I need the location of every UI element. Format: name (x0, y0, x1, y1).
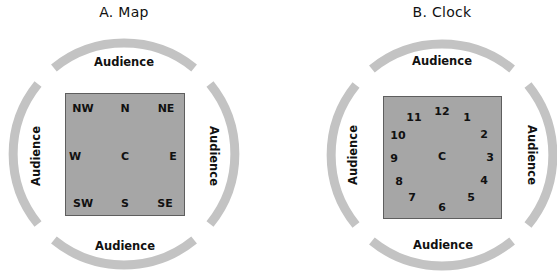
audience-bottom: Audience (413, 238, 473, 252)
label-8: 8 (395, 175, 403, 188)
label-4: 4 (480, 174, 488, 187)
label-6: 6 (438, 201, 446, 214)
panel-title: B. Clock (413, 4, 472, 20)
label-11: 11 (406, 111, 421, 124)
audience-top: Audience (412, 54, 472, 68)
label-12: 12 (434, 105, 449, 118)
panel-clock: B. Clock Audience Audience Audience Audi… (0, 0, 557, 273)
label-9: 9 (390, 152, 398, 165)
label-7: 7 (408, 191, 416, 204)
audience-left: Audience (346, 125, 360, 185)
label-c: C (438, 150, 446, 163)
label-2: 2 (480, 128, 488, 141)
label-10: 10 (390, 129, 405, 142)
label-3: 3 (486, 151, 494, 164)
label-1: 1 (463, 111, 471, 124)
label-5: 5 (467, 191, 475, 204)
audience-right: Audience (525, 125, 539, 185)
